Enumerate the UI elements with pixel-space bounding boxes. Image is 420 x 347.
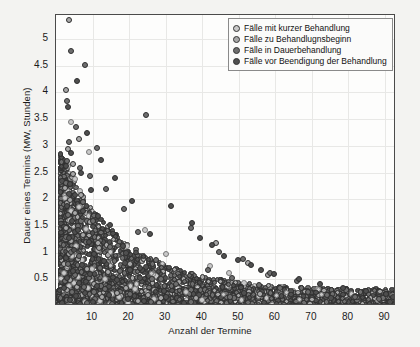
legend-marker-icon <box>233 58 240 65</box>
data-point <box>94 283 100 289</box>
chart-legend: Fälle mit kurzer BehandlungFälle zu Beha… <box>228 18 393 71</box>
legend-marker-icon <box>233 47 240 54</box>
data-point <box>163 251 169 257</box>
data-point <box>73 124 79 130</box>
data-point <box>80 232 86 238</box>
data-point <box>90 256 95 261</box>
data-point <box>61 242 66 247</box>
data-point <box>360 301 365 305</box>
data-point <box>261 300 266 305</box>
data-point <box>78 192 84 198</box>
data-point <box>119 300 124 305</box>
data-point <box>281 302 286 305</box>
data-point <box>296 276 302 282</box>
data-point <box>377 289 382 294</box>
data-point <box>257 291 262 296</box>
data-point <box>67 297 73 303</box>
data-point <box>123 250 128 255</box>
data-point <box>221 253 227 259</box>
data-point <box>103 186 109 192</box>
gridline-horizontal <box>56 92 394 93</box>
data-point <box>147 231 153 237</box>
legend-item-label: Fälle in Dauerbehandlung <box>244 46 341 55</box>
y-tick-label: 5 <box>14 32 48 43</box>
gridline-horizontal <box>56 146 394 147</box>
data-point <box>317 281 323 287</box>
data-point <box>187 273 192 278</box>
gridline-horizontal <box>56 173 394 174</box>
data-point <box>70 161 76 167</box>
data-point <box>68 48 74 54</box>
data-point <box>84 130 90 136</box>
x-tick-label: 30 <box>150 311 180 322</box>
data-point <box>213 302 218 305</box>
y-tick-label: 1.5 <box>14 219 48 230</box>
data-point <box>129 198 135 204</box>
data-point <box>86 149 92 155</box>
x-tick-label: 20 <box>113 311 143 322</box>
data-point <box>381 302 386 305</box>
legend-item-label: Fälle zu Behandlugnsbeginn <box>244 35 351 44</box>
data-point <box>107 222 113 228</box>
data-point <box>76 136 82 142</box>
data-point <box>394 293 395 298</box>
data-point <box>358 289 363 294</box>
data-point <box>342 299 347 304</box>
data-point <box>245 300 250 305</box>
data-point <box>65 104 71 110</box>
y-tick-label: 1 <box>14 246 48 257</box>
x-tick-label: 40 <box>186 311 216 322</box>
data-point <box>127 267 132 272</box>
data-point <box>258 267 264 273</box>
data-point <box>256 282 262 288</box>
data-point <box>66 139 72 145</box>
x-tick-label: 50 <box>223 311 253 322</box>
data-point <box>305 289 311 295</box>
data-point <box>78 170 84 176</box>
data-point <box>112 175 118 181</box>
data-point <box>173 281 179 287</box>
data-point <box>75 227 81 233</box>
legend-item[interactable]: Fälle mit kurzer Behandlung <box>233 23 387 33</box>
data-point <box>330 303 335 305</box>
legend-item[interactable]: Fälle vor Beendigung der Behandlung <box>233 56 387 66</box>
x-tick-label: 90 <box>369 311 399 322</box>
x-tick-label: 70 <box>296 311 326 322</box>
data-point <box>127 261 132 266</box>
y-tick-label: 2.5 <box>14 166 48 177</box>
y-tick-label: 4.5 <box>14 59 48 70</box>
data-point <box>74 78 80 84</box>
data-point <box>112 258 117 263</box>
data-point <box>97 265 103 271</box>
data-point <box>98 157 104 163</box>
data-point <box>63 163 69 169</box>
data-point <box>96 256 101 261</box>
data-point <box>209 242 215 248</box>
data-point <box>68 150 74 156</box>
legend-item[interactable]: Fälle in Dauerbehandlung <box>233 45 387 55</box>
data-point <box>82 290 88 296</box>
data-point <box>188 225 194 231</box>
data-point <box>68 119 74 125</box>
data-point <box>271 271 277 277</box>
data-point <box>106 292 112 298</box>
legend-item[interactable]: Fälle zu Behandlugnsbeginn <box>233 34 387 44</box>
data-point <box>91 289 96 294</box>
data-point <box>66 235 72 241</box>
data-point <box>204 303 209 305</box>
data-point <box>239 297 244 302</box>
data-point <box>63 225 69 231</box>
data-point <box>288 292 293 297</box>
data-point <box>109 301 115 305</box>
data-point <box>161 288 167 294</box>
x-tick-label: 80 <box>332 311 362 322</box>
gridline-horizontal <box>56 119 394 120</box>
data-point <box>111 237 116 242</box>
data-point <box>181 300 187 305</box>
data-point <box>65 261 71 267</box>
data-point <box>156 300 162 305</box>
data-point <box>64 98 70 104</box>
data-point <box>90 299 96 305</box>
data-point <box>352 294 358 300</box>
data-point <box>121 206 127 212</box>
